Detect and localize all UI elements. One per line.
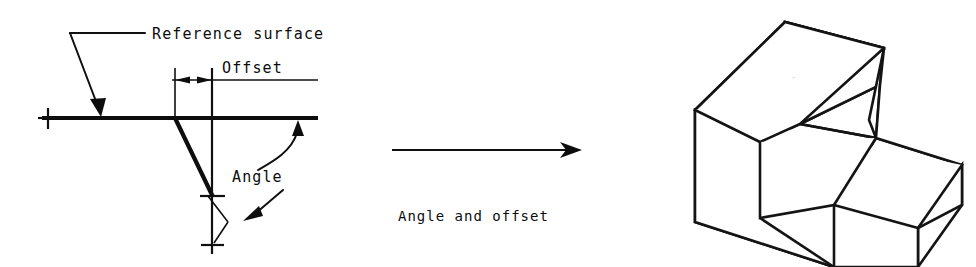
- offset-label: Offset: [222, 59, 283, 77]
- angle-label: Angle: [232, 168, 283, 186]
- angle-indicator-leg-lower: [214, 222, 228, 243]
- reference-surface-label: Reference surface: [152, 25, 324, 43]
- transition-caption: Angle and offset: [398, 208, 549, 224]
- dimension-arrow-icon-right: [197, 76, 212, 83]
- diagram-canvas: Offset Reference surface Angle Angle and…: [0, 0, 976, 267]
- dimension-arrow-icon-left: [175, 76, 190, 83]
- angled-face-line: [175, 118, 213, 197]
- arrowhead-icon-reference-surface: [90, 98, 106, 117]
- arrowhead-icon-angle-lower: [243, 206, 263, 221]
- technical-drawing-svg: Offset Reference surface Angle Angle and…: [0, 0, 976, 267]
- isometric-solid-view: [695, 22, 962, 267]
- reference-surface-leader-diagonal: [70, 33, 97, 104]
- arrowhead-icon-angle-upper: [292, 120, 304, 136]
- left-cross-section-view: Offset Reference surface Angle: [38, 25, 324, 254]
- transition-group: Angle and offset: [392, 142, 582, 224]
- angle-leader-upper: [258, 133, 297, 170]
